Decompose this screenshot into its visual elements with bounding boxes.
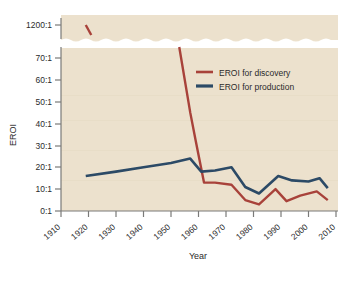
y-tick-label: 50:1 [35, 97, 52, 107]
x-tick-label: 1950 [151, 222, 172, 242]
y-tick-label: 10:1 [35, 184, 52, 194]
x-tick-labels: 1910 1920 1930 1940 1950 1960 1970 1980 … [41, 222, 337, 242]
y-tick-label: 40:1 [35, 119, 52, 129]
x-tick-label: 1920 [69, 222, 90, 242]
eroi-line-chart: 1200:1 70:1 60:1 50:1 40:1 30:1 20:1 10:… [0, 0, 355, 281]
y-tick-marks [55, 25, 61, 211]
y-tick-label: 30:1 [35, 141, 52, 151]
x-tick-label: 1980 [234, 222, 255, 242]
y-tick-label: 1200:1 [26, 20, 52, 30]
y-axis-title: EROI [8, 124, 18, 146]
y-tick-label: 20:1 [35, 162, 52, 172]
y-tick-label: 70:1 [35, 53, 52, 63]
y-tick-label: 60:1 [35, 75, 52, 85]
x-tick-label: 2010 [316, 222, 337, 242]
x-tick-label: 2000 [289, 222, 310, 242]
x-tick-label: 1910 [41, 222, 62, 242]
x-axis-title: Year [189, 251, 207, 261]
legend-label-production: EROI for production [219, 82, 294, 92]
x-tick-label: 1970 [206, 222, 227, 242]
x-tick-label: 1940 [124, 222, 145, 242]
legend-label-discovery: EROI for discovery [219, 68, 291, 78]
x-tick-label: 1930 [96, 222, 117, 242]
x-tick-marks [61, 211, 336, 217]
y-tick-labels: 1200:1 70:1 60:1 50:1 40:1 30:1 20:1 10:… [26, 20, 52, 216]
x-tick-label: 1990 [261, 222, 282, 242]
chart-container: 1200:1 70:1 60:1 50:1 40:1 30:1 20:1 10:… [0, 0, 355, 281]
y-tick-label: 0:1 [40, 206, 52, 216]
x-tick-label: 1960 [179, 222, 200, 242]
